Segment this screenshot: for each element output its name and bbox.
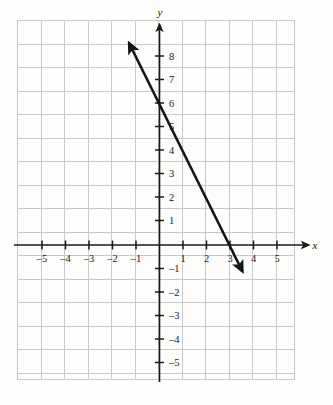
x-tick-label: –4 bbox=[59, 253, 71, 264]
y-tick-label: –5 bbox=[168, 357, 180, 368]
y-tick-label: 3 bbox=[169, 168, 174, 179]
y-tick-label: 8 bbox=[169, 51, 174, 62]
y-tick-label: 7 bbox=[169, 74, 174, 85]
y-tick-label: –1 bbox=[168, 263, 180, 274]
x-tick-label: –1 bbox=[130, 253, 142, 264]
y-tick-label: –2 bbox=[168, 287, 180, 298]
x-tick-label: 3 bbox=[227, 253, 232, 264]
y-tick-label: –4 bbox=[168, 334, 180, 345]
y-tick-label: 1 bbox=[169, 215, 174, 226]
y-tick-label: –3 bbox=[168, 310, 180, 321]
x-tick-label: 5 bbox=[274, 253, 279, 264]
x-axis-name: x bbox=[312, 239, 318, 251]
y-axis-name: y bbox=[157, 6, 163, 18]
y-tick-label: 2 bbox=[169, 192, 174, 203]
x-tick-label: 4 bbox=[251, 253, 257, 264]
coordinate-plane-svg: –5 –4 –3 –2 –1 1 2 3 4 5 8 7 6 5 4 3 2 1… bbox=[0, 0, 333, 405]
x-tick-label: –2 bbox=[106, 253, 118, 264]
x-tick-label: –3 bbox=[83, 253, 95, 264]
y-tick-label: 6 bbox=[169, 98, 174, 109]
graph-figure: –5 –4 –3 –2 –1 1 2 3 4 5 8 7 6 5 4 3 2 1… bbox=[0, 0, 333, 405]
y-tick-label: 4 bbox=[169, 145, 175, 156]
x-tick-label: 2 bbox=[204, 253, 209, 264]
x-tick-label: –5 bbox=[36, 253, 48, 264]
x-tick-label: 1 bbox=[180, 253, 185, 264]
